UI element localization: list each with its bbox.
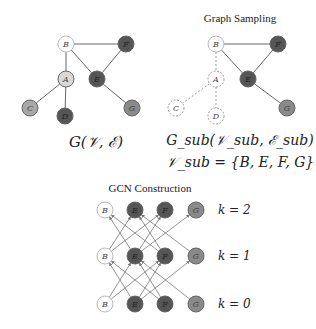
node-F: F	[157, 202, 173, 218]
node-D: D	[57, 108, 73, 124]
node-E: E	[89, 71, 105, 87]
edge	[182, 84, 209, 104]
node-label: C	[27, 104, 33, 113]
edge	[254, 84, 280, 103]
node-F: F	[157, 248, 173, 264]
edge	[65, 87, 66, 108]
node-label: E	[131, 252, 138, 261]
node-G: G	[188, 202, 204, 218]
node-label: B	[101, 300, 108, 309]
node-C: C	[168, 100, 184, 116]
node-E: E	[240, 71, 256, 87]
node-label: F	[122, 40, 129, 49]
full-graph: BFAECDG	[22, 36, 140, 124]
node-label: D	[212, 112, 220, 121]
node-label: F	[161, 300, 168, 309]
gcn-construction: BEFGk = 2BEFGk = 1BEFGk = 0	[97, 202, 251, 312]
node-label: D	[61, 112, 69, 121]
node-label: F	[161, 252, 168, 261]
node-label: G	[193, 252, 200, 261]
node-B: B	[97, 248, 113, 264]
node-label: B	[212, 40, 219, 49]
node-label: E	[131, 300, 138, 309]
node-label: G	[284, 104, 291, 113]
node-E: E	[127, 202, 143, 218]
node-label: G	[193, 300, 200, 309]
gcn-construction-title: GCN Construction	[109, 182, 192, 194]
layer-label: k = 2	[218, 203, 251, 217]
diagram-canvas: BFAECDG BFAECDG BEFGk = 2BEFGk = 1BEFGk …	[0, 0, 316, 329]
subgraph-formula: G_sub(𝒱_sub, ℰ_sub)	[166, 132, 314, 149]
node-label: E	[244, 75, 251, 84]
node-label: F	[274, 40, 281, 49]
node-label: G	[193, 206, 200, 215]
node-A: A	[58, 71, 74, 87]
node-label: A	[212, 75, 219, 84]
edge	[253, 50, 273, 73]
node-G: G	[124, 100, 140, 116]
edge	[36, 84, 60, 103]
node-label: E	[93, 75, 100, 84]
edge	[102, 50, 121, 73]
node-label: B	[101, 252, 108, 261]
node-label: G	[129, 104, 136, 113]
node-G: G	[188, 248, 204, 264]
graph-sampling-title: Graph Sampling	[204, 12, 277, 24]
node-G: G	[279, 100, 295, 116]
node-D: D	[208, 108, 224, 124]
node-A: A	[208, 71, 224, 87]
node-B: B	[208, 36, 224, 52]
node-F: F	[270, 36, 286, 52]
edge	[103, 84, 126, 103]
node-E: E	[127, 248, 143, 264]
node-label: F	[161, 206, 168, 215]
node-E: E	[127, 296, 143, 312]
full-graph-formula: G(𝒱, ℰ)	[69, 133, 123, 151]
node-label: C	[173, 104, 179, 113]
node-label: E	[131, 206, 138, 215]
node-B: B	[58, 36, 74, 52]
layer-label: k = 0	[218, 297, 251, 311]
layer-label: k = 1	[218, 249, 251, 263]
node-B: B	[97, 202, 113, 218]
node-label: B	[62, 40, 69, 49]
sub-vertices-formula: 𝒱_sub = {B, E, F, G}	[166, 154, 315, 171]
node-C: C	[22, 100, 38, 116]
node-label: B	[101, 206, 108, 215]
sampled-subgraph: BFAECDG	[168, 36, 295, 124]
node-B: B	[97, 296, 113, 312]
node-F: F	[118, 36, 134, 52]
node-label: A	[62, 75, 69, 84]
node-F: F	[157, 296, 173, 312]
edge	[71, 50, 91, 73]
node-G: G	[188, 296, 204, 312]
edge	[221, 50, 242, 73]
